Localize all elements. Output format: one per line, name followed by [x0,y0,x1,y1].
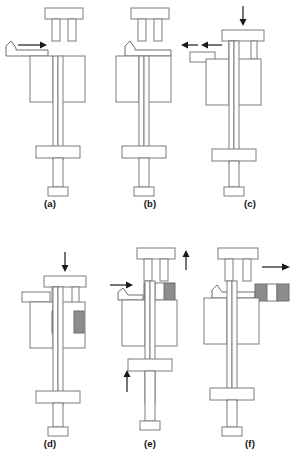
panel-a-caption: (a) [0,198,100,209]
die-block-right [236,298,259,344]
panel-b-caption: (b) [100,198,200,209]
panel-f-drawing [200,240,300,440]
panel-b-drawing [100,0,200,200]
lower-punch-base [224,187,244,196]
die-block-left [206,59,229,105]
compact-core-gap [155,283,164,300]
lower-punch-up-arrow [124,370,131,392]
feed-shoe-retract-arrow [181,42,198,49]
upper-punch-plate [137,248,175,259]
core-rod-left [139,56,144,160]
feed-shoe-advance-arrow [110,282,133,289]
die-block-left [116,56,139,102]
panel-c: (c) [200,0,300,222]
upper-punch-plate [45,8,83,19]
lower-punch-base [134,187,154,196]
die-block-left [122,300,145,346]
panel-a: (a) [0,0,100,222]
part-removal-arrow [262,264,290,271]
feed-shoe [118,288,143,300]
panel-d-caption: (d) [0,438,100,449]
lower-punch-stem [139,158,149,187]
panel-d-drawing [0,240,100,440]
core-rod-left [53,287,58,405]
powder-compact-right [74,311,84,333]
upper-punch-leg-left [225,259,233,281]
upper-punch-leg-left [144,259,152,281]
panel-d: (d) [0,240,100,462]
upper-punch-leg-right [68,19,76,41]
die-block-right [238,59,261,105]
panel-e-drawing [100,240,200,440]
feed-shoe [125,41,171,56]
lower-punch-stem [53,403,63,427]
core-rod-right [58,287,63,405]
upper-punch-plate [44,276,86,287]
upper-punch-plate [218,248,258,259]
panel-b: (b) [100,0,200,222]
lower-punch-flange [210,388,254,400]
lower-punch-stem [229,161,239,187]
compact-core-gap [267,284,277,301]
lower-punch-base [140,421,160,430]
lower-punch-flange [128,359,172,371]
upper-punch-up-arrow [183,250,190,270]
upper-punch-down-arrow [240,6,247,26]
die-block-right [148,56,171,102]
compaction-force-arrow [62,252,69,272]
core-rod-right [144,56,149,160]
lower-punch-flange [36,146,80,158]
die-block-right [62,56,85,102]
die-block-right [154,300,177,346]
lower-punch-stem [145,371,155,421]
feed-shoe [22,292,50,302]
core-rod-left [229,41,234,163]
upper-punch-plate [131,8,169,19]
panel-f-caption: (f) [200,438,300,449]
upper-punch-leg-right [243,259,251,281]
upper-punch-leg-left [52,19,60,41]
lower-punch-base [222,427,242,436]
lower-punch-flange [212,149,256,161]
upper-punch-leg-right [160,259,168,281]
panel-e: (e) [100,240,200,462]
upper-punch-leg-left [138,19,146,41]
core-rod-right [232,281,237,402]
panel-a-drawing [0,0,100,200]
core-rod-right [234,41,239,163]
core-rod-left [53,56,58,160]
upper-punch-plate [222,30,264,41]
upper-punch-leg-right [251,41,257,59]
die-block-left [30,302,53,348]
lower-punch-flange [122,146,166,158]
feed-shoe-advance-arrow [18,42,47,49]
panel-c-caption: (c) [200,198,300,209]
core-rod-left [227,281,232,402]
lower-punch-stem [53,158,63,187]
panel-e-caption: (e) [100,438,200,449]
figure-canvas: (a) (b) [0,0,300,466]
core-rod-right [58,56,63,160]
panel-f: (f) [200,240,300,462]
upper-punch-leg-right [154,19,162,41]
feed-shoe-retract-arrow [201,42,222,49]
panel-c-drawing [200,0,300,200]
powder-compact-right [164,283,175,300]
die-block-left [204,298,227,344]
die-block-left [30,56,53,102]
lower-punch-base [48,187,68,196]
lower-punch-stem [227,400,237,427]
lower-punch-flange [36,391,80,403]
lower-punch-base [48,427,68,436]
powder-compact-right [277,284,289,301]
